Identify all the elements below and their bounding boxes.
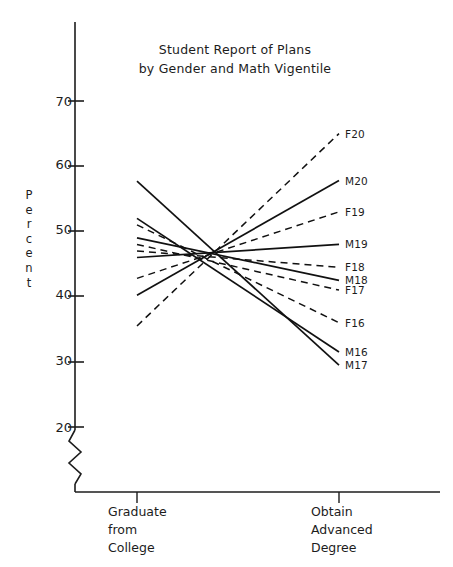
x-category-label-graduate-from-college: Graduate from College <box>108 503 167 557</box>
x-cat-1-line-0: Obtain <box>311 503 373 521</box>
series-line-f20 <box>137 134 339 326</box>
series-label-m17: M17 <box>345 359 368 371</box>
series-label-m16: M16 <box>345 346 368 358</box>
x-cat-0-line-0: Graduate <box>108 503 167 521</box>
x-cat-1-line-1: Advanced <box>311 521 373 539</box>
series-label-m20: M20 <box>345 175 368 187</box>
series-lines <box>137 134 339 365</box>
series-label-f19: F19 <box>345 206 365 218</box>
x-cat-1-line-2: Degree <box>311 539 373 557</box>
chart-figure: Student Report of Plans by Gender and Ma… <box>0 0 453 567</box>
y-axis-break-zigzag <box>69 430 81 484</box>
x-cat-0-line-1: from <box>108 521 167 539</box>
plot-area <box>0 0 453 567</box>
series-label-m19: M19 <box>345 238 368 250</box>
series-label-f20: F20 <box>345 128 365 140</box>
series-label-f16: F16 <box>345 317 365 329</box>
x-category-label-obtain-advanced-degree: Obtain Advanced Degree <box>311 503 373 557</box>
series-label-f18: F18 <box>345 261 365 273</box>
x-cat-0-line-2: College <box>108 539 167 557</box>
series-label-f17: F17 <box>345 284 365 296</box>
